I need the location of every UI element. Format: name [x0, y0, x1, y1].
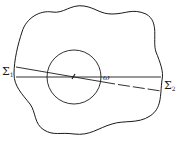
- sigma1-label: Σ1: [2, 66, 14, 78]
- diagram-figure: [0, 0, 179, 145]
- omega-angle-label: ω: [103, 74, 110, 82]
- region-boundary: [14, 6, 163, 135]
- slanted-line-dashed: [118, 85, 161, 92]
- sigma2-label: Σ2: [164, 80, 176, 92]
- diagram-canvas: Σ1 Σ2 ω: [0, 0, 179, 145]
